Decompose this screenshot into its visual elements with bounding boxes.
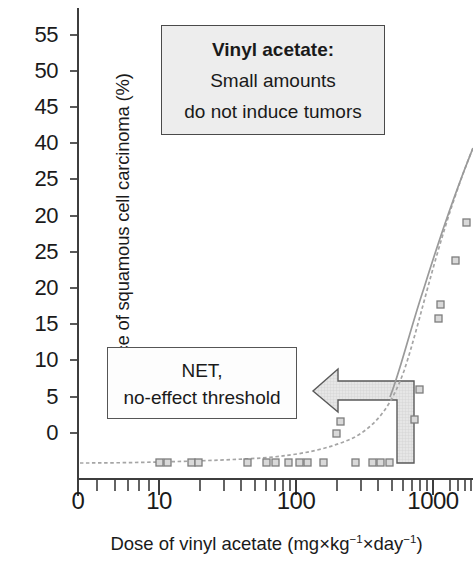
x-tick-label-10: 10	[146, 487, 172, 515]
y-tick-label: 20	[12, 205, 58, 227]
data-point	[272, 459, 279, 466]
y-tick-label: 40	[12, 132, 58, 154]
y-tick-label: 25	[12, 168, 58, 190]
y-tick-label: 45	[12, 96, 58, 118]
data-point	[435, 315, 442, 322]
data-points	[156, 219, 470, 466]
figure-root: 55 50 45 40 25 20 25 20 15 10 5 0 0 10 1…	[0, 0, 473, 574]
data-point	[296, 459, 303, 466]
data-point	[188, 459, 195, 466]
data-point	[333, 430, 340, 437]
y-tick-label: 55	[12, 24, 58, 46]
x-axis-title-sup1: −1	[350, 533, 363, 545]
x-tick-label-100: 100	[277, 487, 316, 515]
vinyl-note-line-2: Small amounts	[162, 65, 384, 96]
data-point	[377, 459, 384, 466]
data-point	[411, 416, 418, 423]
data-point	[337, 418, 344, 425]
data-point	[452, 257, 459, 264]
y-axis-tick-labels: 55 50 45 40 25 20 25 20 15 10 5 0	[12, 0, 58, 470]
y-tick-label: 0	[12, 422, 58, 444]
x-tick-label-1000: 1000	[407, 487, 458, 515]
data-point	[164, 459, 171, 466]
y-axis-ticks	[70, 35, 78, 433]
data-point	[386, 459, 393, 466]
x-axis-title-mid: ×day	[363, 533, 404, 554]
data-point	[320, 459, 327, 466]
x-tick-label-0: 0	[72, 487, 85, 515]
data-point	[416, 386, 423, 393]
y-tick-label: 15	[12, 313, 58, 335]
data-point	[437, 301, 444, 308]
vinyl-note-line-3: do not induce tumors	[162, 96, 384, 127]
data-point	[463, 219, 470, 226]
data-point	[304, 459, 311, 466]
x-axis-title: Dose of vinyl acetate (mg×kg−1×day−1)	[60, 533, 473, 555]
vinyl-acetate-note-box: Vinyl acetate: Small amounts do not indu…	[161, 25, 385, 135]
data-point	[352, 459, 359, 466]
data-point	[263, 459, 270, 466]
y-tick-label: 10	[12, 349, 58, 371]
net-note-line-1: NET,	[108, 357, 296, 384]
data-point	[195, 459, 202, 466]
y-tick-label: 5	[12, 386, 58, 408]
data-point	[369, 459, 376, 466]
x-axis-title-post: )	[416, 533, 422, 554]
net-note-box: NET, no-effect threshold	[107, 347, 297, 419]
data-point	[156, 459, 163, 466]
y-tick-label: 25	[12, 241, 58, 263]
data-point	[244, 459, 251, 466]
x-axis-title-pre: Dose of vinyl acetate (mg×kg	[110, 533, 349, 554]
y-tick-label: 50	[12, 60, 58, 82]
vinyl-note-line-1: Vinyl acetate:	[162, 34, 384, 65]
net-note-line-2: no-effect threshold	[108, 384, 296, 411]
data-point	[285, 459, 292, 466]
y-tick-label: 20	[12, 277, 58, 299]
x-axis-title-sup2: −1	[403, 533, 416, 545]
